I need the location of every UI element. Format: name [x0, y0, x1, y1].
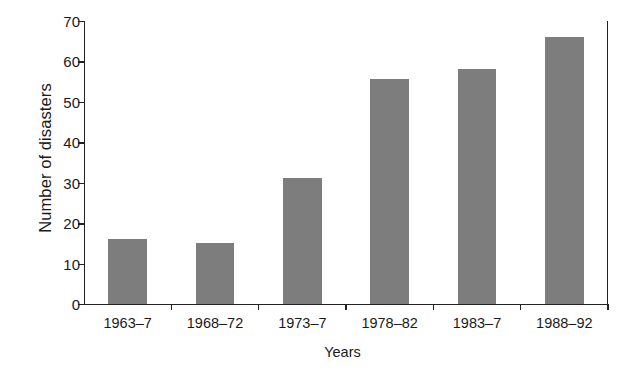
y-tick-label: 20: [63, 216, 80, 231]
x-tick-label: 1983–7: [453, 315, 501, 331]
x-tick-label: 1978–82: [361, 315, 417, 331]
bar-1973–7: [283, 178, 322, 303]
y-tick-label: 70: [63, 14, 80, 29]
x-tick-label: 1963–7: [103, 315, 151, 331]
y-tick-label: 30: [63, 175, 80, 190]
y-tick-label: 0: [72, 297, 80, 312]
x-tick-mark: [171, 304, 172, 310]
bar-chart-figure: Number of disasters 010203040506070 1963…: [0, 0, 635, 374]
bar-1983–7: [458, 69, 497, 303]
right-axis-line: [607, 21, 608, 305]
y-tick-label: 50: [63, 94, 80, 109]
y-axis-line: [84, 21, 85, 305]
x-tick-mark: [345, 304, 346, 310]
y-tick-label: 40: [63, 135, 80, 150]
x-tick-mark: [433, 304, 434, 310]
y-tick-label: 60: [63, 54, 80, 69]
x-axis-title: Years: [0, 344, 635, 360]
x-tick-label: 1988–92: [536, 315, 592, 331]
bar-1968–72: [196, 243, 235, 304]
bar-1963–7: [108, 239, 147, 304]
x-tick-label: 1973–7: [278, 315, 326, 331]
bar-1978–82: [370, 79, 409, 303]
x-tick-mark: [607, 304, 608, 310]
x-tick-mark: [520, 304, 521, 310]
x-tick-mark: [258, 304, 259, 310]
plot-area: 010203040506070 1963–71968–721973–71978–…: [84, 21, 608, 305]
y-axis-title: Number of disasters: [30, 3, 60, 313]
y-tick-label: 10: [63, 256, 80, 271]
x-tick-label: 1968–72: [187, 315, 243, 331]
bar-1988–92: [545, 37, 584, 304]
